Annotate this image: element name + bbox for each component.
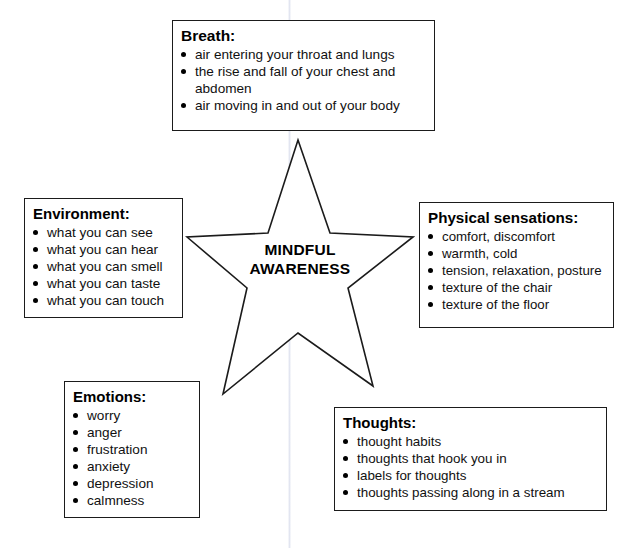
bullet-icon bbox=[181, 52, 186, 57]
list-item: worry bbox=[72, 407, 192, 424]
panel-environment: Environment: what you can see what you c… bbox=[24, 198, 183, 318]
list-item: thought habits bbox=[342, 433, 599, 450]
list-item: comfort, discomfort bbox=[427, 228, 606, 245]
diagram-canvas: MINDFUL AWARENESS Breath: air entering y… bbox=[0, 0, 639, 548]
bullet-icon bbox=[73, 464, 78, 469]
bullet-icon bbox=[33, 264, 38, 269]
panel-emotions-title: Emotions: bbox=[73, 387, 192, 406]
bullet-icon bbox=[181, 69, 186, 74]
list-item: air moving in and out of your body bbox=[180, 97, 427, 114]
panel-breath-title: Breath: bbox=[181, 26, 427, 45]
star-center-label: MINDFUL AWARENESS bbox=[185, 240, 415, 278]
bullet-icon bbox=[181, 103, 186, 108]
panel-physical-sensations-title: Physical sensations: bbox=[428, 208, 606, 227]
bullet-icon bbox=[33, 247, 38, 252]
list-item: anxiety bbox=[72, 458, 192, 475]
list-item: depression bbox=[72, 475, 192, 492]
list-item: what you can see bbox=[32, 224, 175, 241]
bullet-icon bbox=[33, 281, 38, 286]
bullet-icon bbox=[428, 268, 433, 273]
list-item: thoughts that hook you in bbox=[342, 450, 599, 467]
list-item: air entering your throat and lungs bbox=[180, 46, 427, 63]
bullet-icon bbox=[73, 430, 78, 435]
star-label-line-2: AWARENESS bbox=[185, 259, 415, 278]
panel-breath: Breath: air entering your throat and lun… bbox=[172, 20, 435, 131]
bullet-icon bbox=[73, 447, 78, 452]
list-item: what you can touch bbox=[32, 292, 175, 309]
list-item: warmth, cold bbox=[427, 245, 606, 262]
panel-emotions-list: worry anger frustration anxiety depressi… bbox=[72, 407, 192, 509]
panel-thoughts-list: thought habits thoughts that hook you in… bbox=[342, 433, 599, 501]
panel-thoughts: Thoughts: thought habits thoughts that h… bbox=[334, 407, 607, 511]
bullet-icon bbox=[73, 413, 78, 418]
bullet-icon bbox=[428, 285, 433, 290]
bullet-icon bbox=[343, 439, 348, 444]
bullet-icon bbox=[73, 481, 78, 486]
list-item: thoughts passing along in a stream bbox=[342, 484, 599, 501]
list-item: tension, relaxation, posture bbox=[427, 262, 606, 279]
bullet-icon bbox=[428, 234, 433, 239]
list-item: anger bbox=[72, 424, 192, 441]
list-item: labels for thoughts bbox=[342, 467, 599, 484]
panel-emotions: Emotions: worry anger frustration anxiet… bbox=[64, 381, 200, 518]
bullet-icon bbox=[343, 490, 348, 495]
list-item: texture of the chair bbox=[427, 279, 606, 296]
panel-environment-title: Environment: bbox=[33, 204, 175, 223]
bullet-icon bbox=[73, 498, 78, 503]
list-item: what you can smell bbox=[32, 258, 175, 275]
panel-physical-sensations: Physical sensations: comfort, discomfort… bbox=[419, 202, 614, 328]
bullet-icon bbox=[343, 473, 348, 478]
list-item: texture of the floor bbox=[427, 296, 606, 313]
list-item: what you can hear bbox=[32, 241, 175, 258]
list-item: frustration bbox=[72, 441, 192, 458]
panel-physical-sensations-list: comfort, discomfort warmth, cold tension… bbox=[427, 228, 606, 313]
bullet-icon bbox=[428, 251, 433, 256]
bullet-icon bbox=[428, 302, 433, 307]
bullet-icon bbox=[343, 456, 348, 461]
bullet-icon bbox=[33, 298, 38, 303]
list-item: what you can taste bbox=[32, 275, 175, 292]
panel-thoughts-title: Thoughts: bbox=[343, 413, 599, 432]
panel-environment-list: what you can see what you can hear what … bbox=[32, 224, 175, 309]
panel-breath-list: air entering your throat and lungs the r… bbox=[180, 46, 427, 114]
star-label-line-1: MINDFUL bbox=[185, 240, 415, 259]
list-item: the rise and fall of your chest and abdo… bbox=[180, 63, 427, 97]
list-item: calmness bbox=[72, 492, 192, 509]
bullet-icon bbox=[33, 230, 38, 235]
